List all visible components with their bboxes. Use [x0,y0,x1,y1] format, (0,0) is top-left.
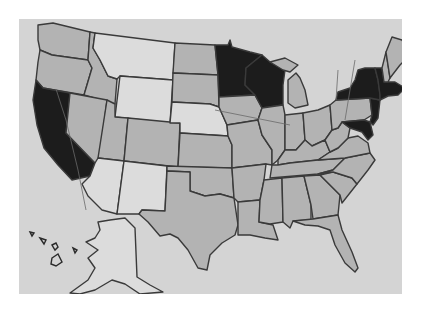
hawaii-island [40,238,46,244]
state-wyoming[interactable] [115,76,173,123]
state-alaska[interactable] [70,218,163,294]
state-maine[interactable] [386,37,402,78]
state-north-dakota[interactable] [173,43,218,75]
hawaii-island [30,232,34,236]
state-colorado[interactable] [124,118,180,167]
state-hawaii[interactable] [52,243,58,250]
state-new-mexico[interactable] [117,161,167,214]
state-new-jersey[interactable] [370,98,380,125]
hawaii-big-island [51,254,62,266]
state-new-york[interactable] [336,68,380,100]
state-kansas[interactable] [178,133,232,168]
map-frame [19,19,402,294]
us-map [19,19,402,294]
hawaii-island [73,248,77,253]
state-michigan[interactable] [288,73,308,108]
state-florida[interactable] [293,215,358,272]
state-mississippi[interactable] [259,178,283,224]
